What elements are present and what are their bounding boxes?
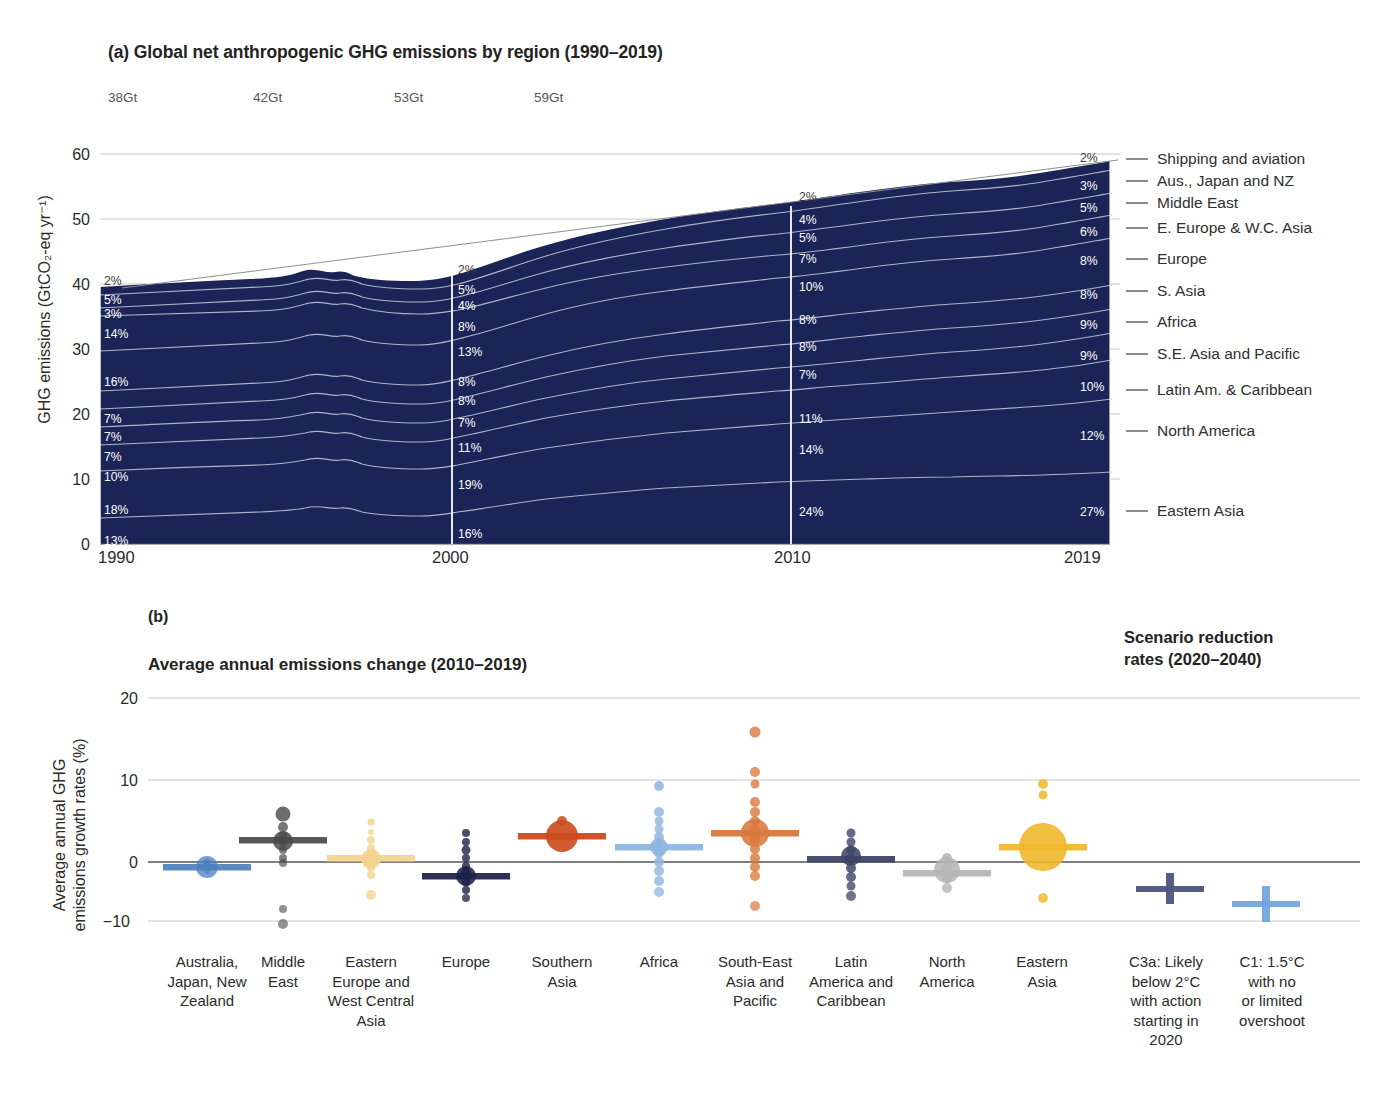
dot-group-australia-japan-nz[interactable] [163,856,251,878]
share-2019-1: 3% [1080,179,1098,193]
b-category-label-c1-scenario: C1: 1.5°Cwith noor limitedovershoot [1216,952,1328,1030]
share-2010-4: 10% [799,280,823,294]
area-total-fill [100,161,1110,544]
legend-line-icon [1126,321,1148,322]
share-2019-5: 8% [1080,288,1098,302]
legend-label: Eastern Asia [1157,502,1244,520]
legend-item-europe[interactable]: Europe [1126,250,1207,268]
panel-b-title: Average annual emissions change (2010–20… [148,655,527,675]
legend-line-icon [1126,227,1148,228]
dot-group-europe[interactable] [422,829,510,902]
legend-item-s-asia[interactable]: S. Asia [1126,282,1205,300]
legend-label: Latin Am. & Caribbean [1157,381,1312,399]
legend-item-middle-east[interactable]: Middle East [1126,194,1238,212]
share-2000-1: 5% [458,283,476,297]
share-2019-3: 6% [1080,225,1098,239]
share-1990-5: 7% [104,412,122,426]
legend-label: Aus., Japan and NZ [1157,172,1294,190]
panel-b-right-title: Scenario reduction rates (2020–2040) [1124,626,1273,671]
legend-line-icon [1126,353,1148,354]
share-2000-0: 2% [458,263,476,277]
legend-label: E. Europe & W.C. Asia [1157,219,1312,237]
legend-label: Middle East [1157,194,1238,212]
share-2000-8: 11% [458,441,482,455]
share-1990-7: 7% [104,450,122,464]
share-2000-2: 4% [458,299,476,313]
scenario-marker-c1[interactable] [1232,886,1300,922]
share-2019-4: 8% [1080,254,1098,268]
share-2010-10: 24% [799,505,823,519]
legend-item-africa[interactable]: Africa [1126,313,1197,331]
share-2000-6: 8% [458,394,476,408]
share-2010-2: 5% [799,231,817,245]
share-1990-9: 18% [104,503,128,517]
legend-label: Europe [1157,250,1207,268]
share-1990-6: 7% [104,430,122,444]
share-2000-4: 13% [458,345,482,359]
legend-item-aus-japan-nz[interactable]: Aus., Japan and NZ [1126,172,1294,190]
dot-group-north-america[interactable] [903,853,991,893]
share-2000-10: 16% [458,527,482,541]
share-2010-5: 8% [799,313,817,327]
share-2019-6: 9% [1080,318,1098,332]
share-1990-8: 10% [104,470,128,484]
legend-item-north-america[interactable]: North America [1126,422,1255,440]
legend-line-icon [1126,510,1148,511]
share-2010-3: 7% [799,252,817,266]
legend-item-e-europe-wc-asia[interactable]: E. Europe & W.C. Asia [1126,219,1312,237]
b-category-label-africa: Africa [612,952,706,972]
b-category-label-c3a-scenario: C3a: Likelybelow 2°Cwith actionstarting … [1106,952,1226,1050]
legend-item-se-asia-and-pacific[interactable]: S.E. Asia and Pacific [1126,345,1300,363]
share-2019-9: 12% [1080,429,1104,443]
legend-item-shipping-and-aviation[interactable]: Shipping and aviation [1126,150,1305,168]
share-1990-3: 14% [104,327,128,341]
share-2019-10: 27% [1080,505,1104,519]
share-2010-0: 2% [799,190,817,204]
legend-label: Shipping and aviation [1157,150,1305,168]
legend-label: North America [1157,422,1255,440]
dot-group-middle-east[interactable] [239,807,327,930]
b-category-label-north-america: NorthAmerica [898,952,996,991]
right-title-line-2: rates (2020–2040) [1124,648,1273,670]
dot-group-south-east-asia-and-pacific[interactable] [711,727,799,912]
b-category-label-eastern-asia: EasternAsia [992,952,1092,991]
legend-label: Africa [1157,313,1197,331]
panel-b-letter: (b) [148,608,168,626]
share-2010-8: 11% [799,412,823,426]
share-2000-9: 19% [458,478,482,492]
dot-group-eastern-europe-west-central-asia[interactable] [327,819,415,901]
panel-b-plot [0,690,1381,950]
legend-line-icon [1126,180,1148,181]
dot-group-latin-america-and-caribbean[interactable] [807,829,895,902]
dot-group-eastern-asia[interactable] [999,779,1087,903]
legend-label: S. Asia [1157,282,1205,300]
legend-item-latin-am-caribbean[interactable]: Latin Am. & Caribbean [1126,381,1312,399]
legend-line-icon [1126,202,1148,203]
share-2010-6: 8% [799,340,817,354]
legend-line-icon [1126,258,1148,259]
share-1990-4: 16% [104,375,128,389]
right-title-line-1: Scenario reduction [1124,626,1273,648]
b-category-label-europe: Europe [416,952,516,972]
scenario-marker-c3a[interactable] [1136,873,1204,904]
share-2010-1: 4% [799,213,817,227]
share-2000-5: 8% [458,375,476,389]
share-2019-7: 9% [1080,349,1098,363]
dot-group-southern-asia[interactable] [518,816,606,852]
legend-item-eastern-asia[interactable]: Eastern Asia [1126,502,1244,520]
share-2000-3: 8% [458,320,476,334]
legend-line-icon [1126,389,1148,390]
dot-group-africa[interactable] [615,781,703,897]
share-1990-1: 5% [104,293,122,307]
stacked-area-chart: GHG emissions (GtCO₂-eq yr⁻¹) 60 50 40 3… [0,0,1381,600]
share-2019-2: 5% [1080,201,1098,215]
share-1990-2: 3% [104,307,122,321]
share-2000-7: 7% [458,416,476,430]
share-2010-7: 7% [799,368,817,382]
legend-label: S.E. Asia and Pacific [1157,345,1300,363]
b-category-label-southern-asia: SouthernAsia [508,952,616,991]
legend-line-icon [1126,158,1148,159]
share-2019-8: 10% [1080,380,1104,394]
share-1990-0: 2% [104,274,122,288]
share-1990-10: 13% [104,534,128,548]
